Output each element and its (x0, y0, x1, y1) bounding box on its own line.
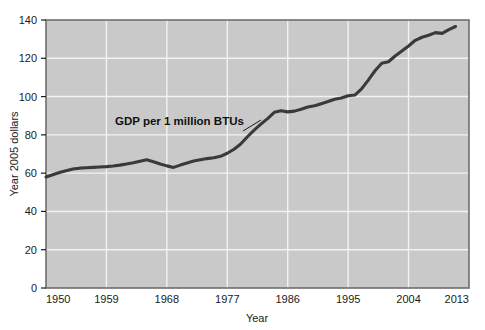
x-axis-title: Year (246, 312, 269, 324)
y-axis-tick-label: 120 (19, 52, 37, 64)
x-axis-tick-label: 2013 (445, 293, 469, 305)
y-axis-title: Year 2005 dollars (8, 111, 20, 197)
x-axis-tick-label: 2004 (396, 293, 420, 305)
y-axis-tick-label: 20 (25, 244, 37, 256)
y-axis-tick-label: 40 (25, 205, 37, 217)
x-axis-tick-label: 1995 (336, 293, 360, 305)
x-axis-tick-label: 1950 (46, 293, 70, 305)
plot-area-background (46, 20, 469, 288)
y-axis-tick-label: 100 (19, 91, 37, 103)
chart-canvas: 020406080100120140 195019591968197719861… (0, 0, 485, 330)
series-annotation-label: GDP per 1 million BTUs (115, 115, 244, 127)
x-axis-tick-label: 1986 (275, 293, 299, 305)
y-axis-tick-label: 140 (19, 14, 37, 26)
x-axis-tick-label: 1977 (215, 293, 239, 305)
y-axis-tick-label: 80 (25, 129, 37, 141)
y-axis-tick-label: 60 (25, 167, 37, 179)
x-axis-tick-label: 1959 (94, 293, 118, 305)
y-axis-tick-label: 0 (31, 282, 37, 294)
chart-figure: 020406080100120140 195019591968197719861… (0, 0, 485, 330)
x-axis-tick-label: 1968 (155, 293, 179, 305)
